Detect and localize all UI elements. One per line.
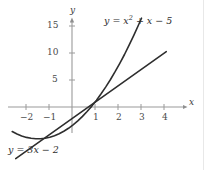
y-axis-label: y xyxy=(70,6,75,15)
y-tick-label-15: 15 xyxy=(47,21,58,30)
x-tick-label-2: 2 xyxy=(116,113,122,122)
line-equation-label: y = 3x − 2 xyxy=(8,145,59,155)
y-tick-label-5: 5 xyxy=(52,75,58,84)
x-tick-label--1: −1 xyxy=(43,113,56,122)
x-tick-label-1: 1 xyxy=(93,113,99,122)
x-tick-label--2: −2 xyxy=(20,113,33,122)
line-curve xyxy=(16,52,167,159)
x-axis-label: x xyxy=(189,98,194,107)
parabola-equation-label: y = x2 + x − 5 xyxy=(104,16,172,26)
parabola-label-prefix: y = x xyxy=(104,15,129,26)
graph-figure: −2 −1 1 2 3 4 5 10 15 x y y = x2 + x − 5… xyxy=(0,0,204,170)
x-tick-label-3: 3 xyxy=(139,113,145,122)
parabola-label-suffix: + x − 5 xyxy=(133,15,172,26)
x-tick-label-4: 4 xyxy=(162,113,168,122)
y-tick-label-10: 10 xyxy=(47,48,58,57)
